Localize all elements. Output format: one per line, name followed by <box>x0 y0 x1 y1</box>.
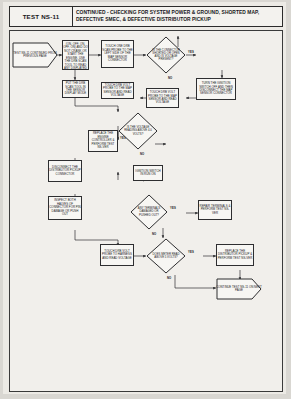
node-ignition-run: IGNITION SWITCH IN RUN ON <box>133 165 163 181</box>
scanned-manual-page: TEST NS-11 CONTINUED - CHECKING FOR SYST… <box>0 0 291 399</box>
node-replace-controller: REPLACE THE ENGINE CONTROLLER & PERFORM … <box>88 130 118 152</box>
node-ignition-cycle: TURN THE IGNITION ON (ON, OFF, ON, OFF, … <box>62 40 89 70</box>
node-put-drb-limp-label: PUT THE DRB SCAN TOOL IN THE SENSOR DISP… <box>63 82 88 96</box>
decision-connector-ok-label: IS THE CONNECTOR SHORTED OR OPEN AND IS … <box>151 36 181 74</box>
start-terminator: TEST NS-11 CONTINUED FROM PREVIOUS PAGE <box>12 42 58 68</box>
branch-label-no-voltage: NO <box>140 152 144 156</box>
end-terminator: CONTINUE TEST NS-11 ON NEXT PAGE <box>216 278 262 300</box>
decision-voltage-ok-label: IS THE VOLTAGE READING ABOVE 4.0 VOLTS? <box>123 112 153 150</box>
start-terminator-label: TEST NS-11 CONTINUED FROM PREVIOUS PAGE <box>12 42 58 68</box>
decision-connector-ok: IS THE CONNECTOR SHORTED OR OPEN AND IS … <box>146 36 186 74</box>
branch-label-no-connector: NO <box>168 76 172 80</box>
branch-label-no-meter: NO <box>167 276 171 280</box>
node-drb-display-label: TOUCH DRB VOLT PROBE TO THE MAP SENSOR A… <box>147 91 178 105</box>
branch-label-yes-meter: YES <box>188 250 194 254</box>
decision-voltage-ok: IS THE VOLTAGE READING ABOVE 4.0 VOLTS? <box>118 112 158 150</box>
node-touch-drb-read-label: TOUCH DRB VOLT PROBE TO THE MAP SENSOR A… <box>102 84 133 98</box>
node-disconnect-pickup-label: DISCONNECT THE DISTRIBUTOR PICKUP CONNEC… <box>49 166 81 176</box>
node-touch-drb-meter: TOUCH DRB VOLT PROBE TO HARNESS AND READ… <box>100 244 134 266</box>
branch-label-no-pins: NO <box>152 232 156 236</box>
node-turn-ignition-crank: TURN THE IGNITION SWITCH OFF AND THEN DI… <box>196 78 236 100</box>
decision-pins-damaged: ANY TERMINALS DAMAGED OR PUSHED OUT? <box>130 194 168 230</box>
node-touch-drb-map: TOUCH ONE DRB SCAN PROBE TO THE LEFT SID… <box>101 40 134 68</box>
node-replace-controller-label: REPLACE THE ENGINE CONTROLLER & PERFORM … <box>89 132 117 149</box>
node-inspect-connector: INSPECT BOTH HALVES OF CONNECTOR FOR PIN… <box>48 196 82 220</box>
decision-meter-reads: DOES METER READ ABOVE 5 VOLTS? <box>146 238 186 274</box>
node-repair-terminals-label: REPAIR TERMINALS & PERFORM TEST NS-VER <box>199 205 231 215</box>
node-ignition-run-label: IGNITION SWITCH IN RUN ON <box>134 170 162 177</box>
branch-label-yes-connector: YES <box>188 50 194 54</box>
decision-pins-damaged-label: ANY TERMINALS DAMAGED OR PUSHED OUT? <box>135 194 164 230</box>
node-disconnect-pickup: DISCONNECT THE DISTRIBUTOR PICKUP CONNEC… <box>48 160 82 182</box>
branch-label-yes-pins: YES <box>170 206 176 210</box>
node-replace-distributor-label: REPLACE THE DISTRIBUTOR PICKUP & PERFORM… <box>217 250 253 260</box>
node-drb-display: TOUCH DRB VOLT PROBE TO THE MAP SENSOR A… <box>146 88 179 108</box>
node-touch-drb-meter-label: TOUCH DRB VOLT PROBE TO HARNESS AND READ… <box>101 250 133 260</box>
node-inspect-connector-label: INSPECT BOTH HALVES OF CONNECTOR FOR PIN… <box>49 199 81 216</box>
node-touch-drb-map-label: TOUCH ONE DRB SCAN PROBE TO THE LEFT SID… <box>102 45 133 62</box>
end-terminator-label: CONTINUE TEST NS-11 ON NEXT PAGE <box>216 278 262 300</box>
node-ignition-cycle-label: TURN THE IGNITION ON (ON, OFF, ON, OFF, … <box>63 40 88 70</box>
node-replace-distributor: REPLACE THE DISTRIBUTOR PICKUP & PERFORM… <box>216 244 254 266</box>
node-turn-ignition-crank-label: TURN THE IGNITION SWITCH OFF AND THEN DI… <box>197 82 235 96</box>
decision-meter-reads-label: DOES METER READ ABOVE 5 VOLTS? <box>151 238 181 274</box>
node-touch-drb-read: TOUCH DRB VOLT PROBE TO THE MAP SENSOR A… <box>101 82 134 99</box>
node-put-drb-limp: PUT THE DRB SCAN TOOL IN THE SENSOR DISP… <box>62 80 89 98</box>
node-repair-terminals: REPAIR TERMINALS & PERFORM TEST NS-VER <box>198 200 232 220</box>
